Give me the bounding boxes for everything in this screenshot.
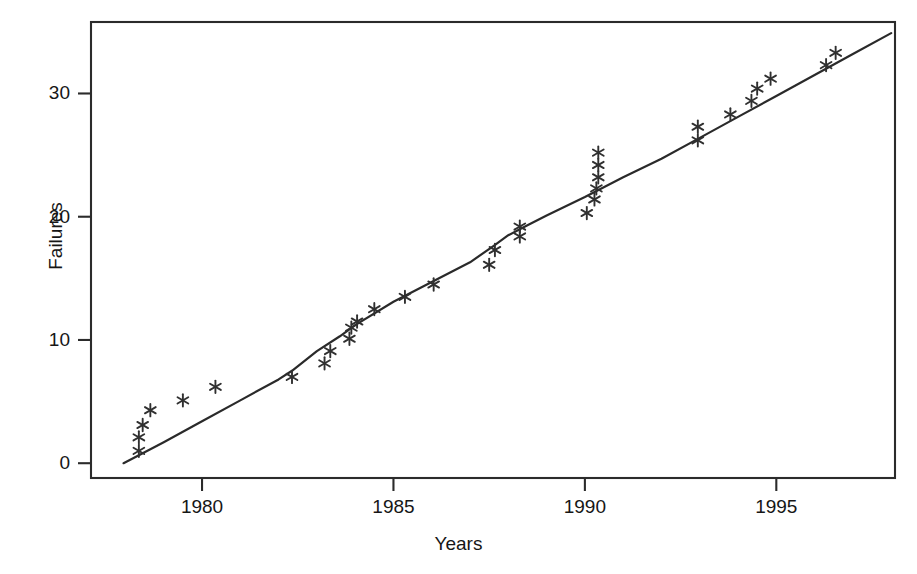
asterisk-marker xyxy=(821,59,832,71)
asterisk-marker xyxy=(133,431,144,443)
data-markers xyxy=(133,47,841,457)
asterisk-marker xyxy=(210,381,221,393)
asterisk-marker xyxy=(145,404,156,416)
y-axis-label: Failures xyxy=(45,156,67,316)
asterisk-marker xyxy=(133,445,144,457)
asterisk-marker xyxy=(746,95,757,107)
x-axis-label: Years xyxy=(0,533,917,555)
asterisk-marker xyxy=(490,244,501,256)
plot-area xyxy=(0,0,917,574)
asterisk-marker xyxy=(325,345,336,357)
y-axis-ticks xyxy=(78,93,91,463)
y-tick-label: 0 xyxy=(20,452,70,474)
chart-figure: 01020301980198519901995 Failures Years xyxy=(0,0,917,574)
asterisk-marker xyxy=(593,146,604,158)
y-tick-label: 10 xyxy=(20,329,70,351)
plot-border xyxy=(91,22,895,478)
asterisk-marker xyxy=(692,121,703,133)
asterisk-marker xyxy=(319,357,330,369)
y-axis-label-wrap: Failures xyxy=(6,225,36,255)
asterisk-marker xyxy=(593,171,604,183)
x-axis-ticks xyxy=(202,478,776,491)
asterisk-marker xyxy=(581,207,592,219)
trend-line xyxy=(124,33,892,463)
plot-frame xyxy=(91,22,895,478)
x-tick-label: 1990 xyxy=(564,496,606,518)
asterisk-marker xyxy=(137,419,148,431)
x-tick-label: 1980 xyxy=(181,496,223,518)
asterisk-marker xyxy=(593,159,604,171)
asterisk-marker xyxy=(765,72,776,84)
asterisk-marker xyxy=(752,82,763,94)
asterisk-marker xyxy=(484,259,495,271)
x-tick-label: 1995 xyxy=(755,496,797,518)
asterisk-marker xyxy=(344,333,355,345)
asterisk-marker xyxy=(369,303,380,315)
x-tick-label: 1985 xyxy=(372,496,414,518)
y-tick-label: 30 xyxy=(20,82,70,104)
asterisk-marker xyxy=(830,47,841,59)
fitted-trend-line xyxy=(124,33,892,463)
asterisk-marker xyxy=(178,394,189,406)
